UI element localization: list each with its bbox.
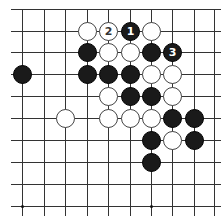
black-stone	[185, 109, 204, 128]
white-stone	[99, 87, 118, 106]
grid-line-horizontal	[11, 162, 221, 163]
move-number: 1	[127, 25, 135, 38]
grid-line-horizontal	[11, 206, 221, 207]
star-point	[21, 205, 24, 208]
white-stone	[142, 109, 161, 128]
grid-line-vertical	[44, 9, 45, 216]
black-stone	[163, 109, 182, 128]
white-stone: 2	[99, 22, 118, 41]
black-stone	[78, 65, 97, 84]
move-number: 2	[105, 25, 113, 38]
white-stone	[121, 43, 140, 62]
white-stone	[142, 65, 161, 84]
go-board[interactable]: 213	[0, 0, 221, 223]
black-stone: 1	[121, 22, 140, 41]
black-stone	[142, 43, 161, 62]
grid-line-vertical	[22, 9, 23, 216]
black-stone	[78, 43, 97, 62]
black-stone	[99, 65, 118, 84]
grid-line-horizontal	[11, 9, 221, 10]
white-stone	[78, 22, 97, 41]
black-stone	[142, 131, 161, 150]
grid-line-horizontal	[11, 184, 221, 185]
black-stone	[13, 65, 32, 84]
white-stone	[163, 87, 182, 106]
black-stone: 3	[163, 43, 182, 62]
white-stone	[121, 109, 140, 128]
black-stone	[142, 153, 161, 172]
grid-line-vertical	[214, 9, 215, 216]
white-stone	[163, 65, 182, 84]
white-stone	[99, 109, 118, 128]
white-stone	[99, 43, 118, 62]
white-stone	[163, 131, 182, 150]
white-stone	[56, 109, 75, 128]
black-stone	[121, 87, 140, 106]
move-number: 3	[169, 46, 177, 59]
black-stone	[185, 131, 204, 150]
star-point	[150, 205, 153, 208]
white-stone	[142, 22, 161, 41]
black-stone	[121, 65, 140, 84]
black-stone	[142, 87, 161, 106]
